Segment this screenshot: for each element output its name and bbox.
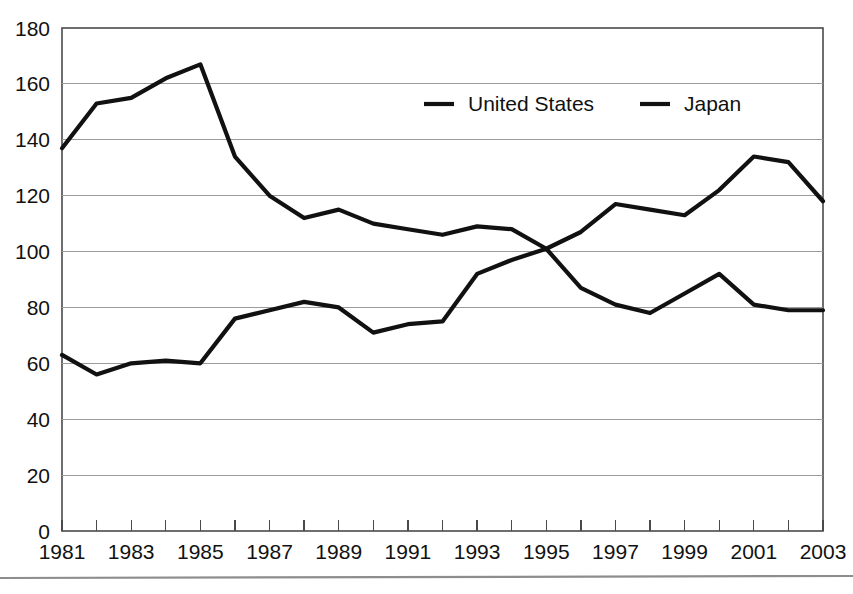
x-tick-label: 1989 [315, 540, 362, 563]
y-tick-label: 80 [27, 296, 50, 319]
y-tick-label: 120 [15, 184, 50, 207]
y-tick-label: 160 [15, 72, 50, 95]
x-tick-label: 1995 [523, 540, 570, 563]
y-tick-label: 140 [15, 128, 50, 151]
y-tick-label: 180 [15, 17, 50, 40]
y-tick-label: 40 [27, 408, 50, 431]
x-tick-label: 1983 [108, 540, 155, 563]
x-tick-label: 2001 [730, 540, 777, 563]
x-tick-label: 1993 [454, 540, 501, 563]
chart-figure: 020406080100120140160180 198119831985198… [0, 0, 853, 594]
y-tick-label: 100 [15, 240, 50, 263]
legend-label-japan: Japan [684, 92, 741, 115]
x-tick-label: 1985 [177, 540, 224, 563]
y-tick-label: 20 [27, 464, 50, 487]
x-tick-label: 1999 [661, 540, 708, 563]
legend-label-united-states: United States [468, 92, 594, 115]
y-tick-label: 60 [27, 352, 50, 375]
x-tick-label: 1987 [246, 540, 293, 563]
x-tick-label: 1981 [39, 540, 86, 563]
line-chart: 020406080100120140160180 198119831985198… [0, 0, 853, 594]
x-tick-label: 1997 [592, 540, 639, 563]
x-tick-label: 1991 [385, 540, 432, 563]
chart-legend: United StatesJapan [424, 92, 741, 115]
x-tick-label: 2003 [800, 540, 847, 563]
